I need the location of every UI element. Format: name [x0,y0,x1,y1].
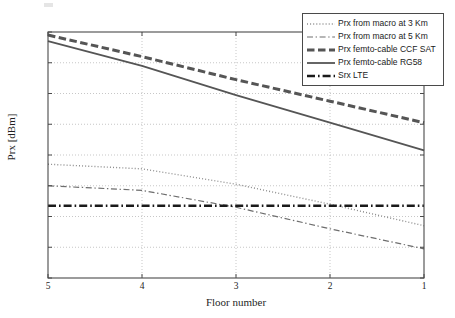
x-tick-label: 4 [132,281,152,291]
legend-line-sample [306,31,336,43]
legend-line-sample [306,18,336,30]
legend-line-sample [306,57,336,69]
x-tick-label: 2 [320,281,340,291]
legend-item: Prx from macro at 5 Km [306,30,439,43]
legend-label: Srx LTE [338,71,368,80]
y-axis-title: Prx [dBm] [5,97,17,177]
chart-legend: Prx from macro at 3 KmPrx from macro at … [302,13,444,86]
chart-figure: -50-60-70-80-90-100-110-120-130 54321 Pr… [0,0,455,318]
legend-label: Prx from macro at 5 Km [338,32,428,41]
legend-item: Prx from macro at 3 Km [306,17,439,30]
x-tick-label: 1 [414,281,434,291]
legend-line-sample [306,70,336,82]
x-tick-label: 3 [226,281,246,291]
legend-line-sample [306,44,336,56]
legend-item: Prx femto-cable CCF SAT [306,43,439,56]
legend-item: Srx LTE [306,69,439,82]
x-axis-title: Floor number [48,296,424,308]
legend-item: Prx femto-cable RG58 [306,56,439,69]
legend-label: Prx femto-cable CCF SAT [338,45,436,54]
legend-label: Prx femto-cable RG58 [338,58,422,67]
x-tick-label: 5 [38,281,58,291]
legend-label: Prx from macro at 3 Km [338,19,428,28]
